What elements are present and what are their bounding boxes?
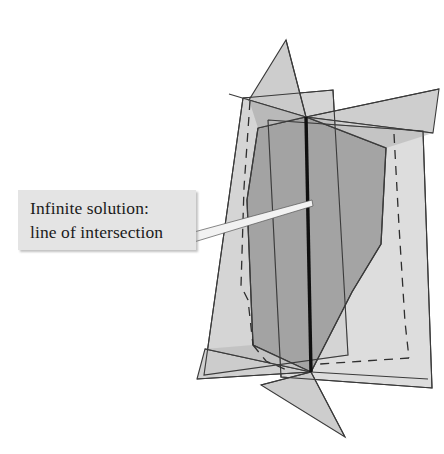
figure-canvas: Infinite solution: line of intersection [0, 0, 444, 454]
callout-line-1: Infinite solution: [30, 196, 186, 220]
callout-label: Infinite solution: line of intersection [18, 190, 196, 250]
callout-line-2: line of intersection [30, 220, 186, 244]
